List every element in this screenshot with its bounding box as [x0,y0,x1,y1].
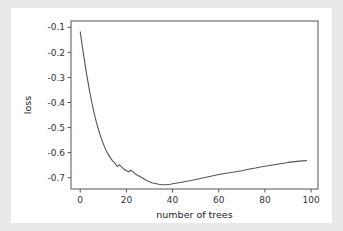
loss-series-line [80,32,306,185]
x-tick-label: 100 [302,195,319,205]
x-tick-label: 60 [213,195,225,205]
y-tick-label: -0.5 [47,123,65,133]
x-tick-label: 20 [121,195,133,205]
y-tick-label: -0.7 [47,173,65,183]
axis-tick-labels: 020406080100-0.1-0.2-0.3-0.4-0.5-0.6-0.7 [47,22,319,205]
axis-ticks [68,27,312,192]
y-tick-label: -0.3 [47,73,65,83]
y-axis-label: loss [22,96,33,114]
x-axis-label: number of trees [156,209,232,220]
figure-canvas: 020406080100-0.1-0.2-0.3-0.4-0.5-0.6-0.7… [11,8,332,223]
x-tick-label: 0 [77,195,83,205]
y-tick-label: -0.2 [47,48,65,58]
x-tick-label: 40 [167,195,179,205]
y-tick-label: -0.1 [47,22,65,32]
x-tick-label: 80 [259,195,271,205]
y-tick-label: -0.6 [47,148,65,158]
y-tick-label: -0.4 [47,98,65,108]
loss-curve-chart: 020406080100-0.1-0.2-0.3-0.4-0.5-0.6-0.7… [11,8,332,223]
